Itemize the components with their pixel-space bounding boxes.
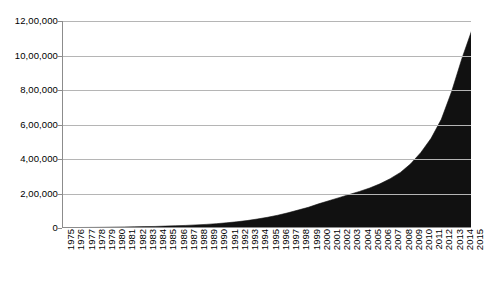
y-axis-tick-label: 8,00,000 bbox=[0, 85, 58, 95]
x-axis-tick-label: 2012 bbox=[444, 229, 454, 250]
y-axis-tick-label: 4,00,000 bbox=[0, 154, 58, 164]
y-axis-tick-label: 0 bbox=[0, 223, 58, 233]
gridline bbox=[63, 194, 471, 195]
x-axis-tick-label: 1990 bbox=[219, 229, 229, 250]
y-axis-tick-label: 2,00,000 bbox=[0, 189, 58, 199]
area-chart: 12,00,00010,00,0008,00,0006,00,0004,00,0… bbox=[0, 0, 489, 281]
x-axis-tick-label: 1994 bbox=[260, 229, 270, 250]
x-axis-tick-label: 1999 bbox=[312, 229, 322, 250]
x-axis-tick-label: 2007 bbox=[393, 229, 403, 250]
y-axis-tick-labels: 12,00,00010,00,0008,00,0006,00,0004,00,0… bbox=[0, 0, 58, 281]
y-axis-tick-label: 12,00,000 bbox=[0, 16, 58, 26]
x-axis-tick-label: 2003 bbox=[352, 229, 362, 250]
x-axis-tick-labels: 1975197619771978197919801981198219831984… bbox=[62, 229, 477, 281]
gridline bbox=[63, 56, 471, 57]
gridline bbox=[63, 159, 471, 160]
gridline bbox=[63, 90, 471, 91]
gridline bbox=[63, 125, 471, 126]
gridline bbox=[63, 21, 471, 22]
plot-area bbox=[62, 21, 471, 228]
x-axis-tick-label: 2015 bbox=[475, 229, 485, 250]
x-axis-tick-label: 1976 bbox=[76, 229, 86, 250]
x-axis-tick-label: 1998 bbox=[301, 229, 311, 250]
x-axis-tick-label: 1985 bbox=[168, 229, 178, 250]
y-axis-tick-label: 10,00,000 bbox=[0, 51, 58, 61]
y-axis-tick-label: 6,00,000 bbox=[0, 120, 58, 130]
x-axis-tick-label: 1981 bbox=[127, 229, 137, 250]
series-path bbox=[63, 30, 471, 228]
